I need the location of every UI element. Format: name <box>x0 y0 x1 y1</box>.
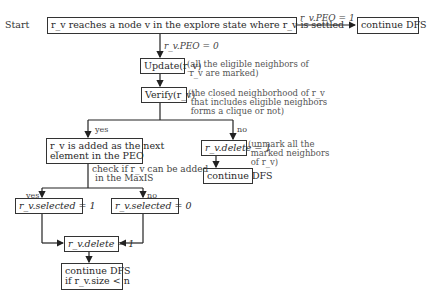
node-continue-dfs-top: continue DFS <box>357 17 419 34</box>
node-continue-dfs-final: continue DFS if r_v.size < n <box>61 263 123 290</box>
node-verify: Verify(r_v) <box>141 87 187 103</box>
note-delete-right: (unmark all the marked neighbors of r_v) <box>248 140 329 167</box>
node-selected-0: r_v.selected = 0 <box>111 198 179 214</box>
continue-final-line2: if r_v.size < n <box>65 276 119 286</box>
edge-label-peo-1: r_v.PEO = 1 <box>300 14 355 24</box>
node-add-to-peo-line2: element in the PEO <box>50 151 139 161</box>
node-delete-center: r_v.delete = 1 <box>64 236 119 252</box>
node-add-to-peo: r_v is added as the next element in the … <box>46 138 143 164</box>
note-verify: (the closed neighborhood of r_v that inc… <box>188 89 327 116</box>
edge-label-peo-0: r_v.PEO = 0 <box>164 42 219 52</box>
node-update: Update(r_v) <box>140 58 185 74</box>
edge-label-verify-yes: yes <box>95 125 108 135</box>
edge-label-verify-no: no <box>237 125 247 135</box>
node-delete-right: r_v.delete = 1 <box>201 140 247 156</box>
start-label: Start <box>5 20 29 30</box>
node-continue-dfs-right: continue DFS <box>203 168 253 184</box>
node-selected-1: r_v.selected = 1 <box>15 198 83 214</box>
node-settled: r_v reaches a node v in the explore stat… <box>47 17 297 34</box>
check-line2: in the MaxIS <box>92 174 208 183</box>
edge-label-check-maxis: check if r_v can be added in the MaxIS <box>92 165 208 183</box>
note-update: (all the eligible neighbors of r_v are m… <box>187 60 309 78</box>
